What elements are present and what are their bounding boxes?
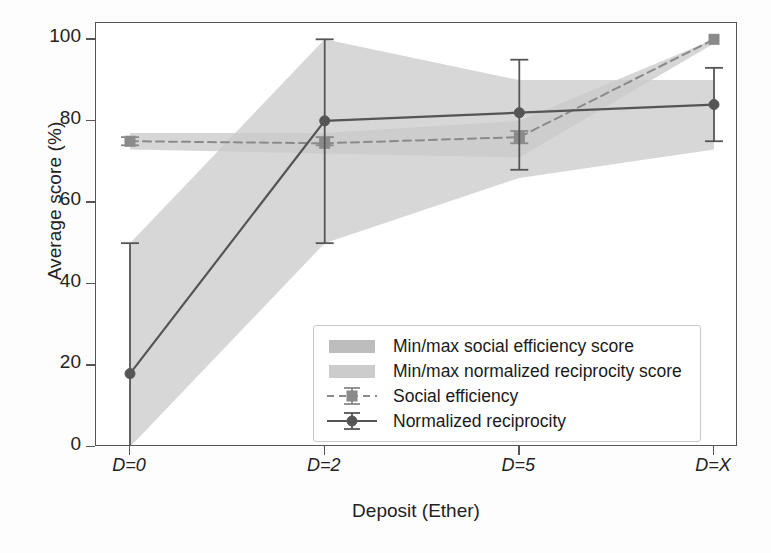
marker-circle-1-2 — [514, 108, 524, 118]
x-tick-mark — [324, 446, 325, 455]
x-tick-label: D=X — [668, 455, 758, 476]
legend-label: Min/max social efficiency score — [393, 336, 634, 356]
legend-band-swatch — [329, 365, 375, 378]
legend-label: Min/max normalized reciprocity score — [393, 361, 682, 381]
y-tick-mark — [86, 283, 95, 284]
marker-circle-1-3 — [709, 100, 719, 110]
legend-line-sample — [323, 385, 381, 407]
x-tick-label: D=2 — [279, 455, 369, 476]
y-tick-mark — [86, 201, 95, 202]
x-tick-mark — [713, 446, 714, 455]
y-tick-label: 20 — [26, 351, 81, 373]
legend-marker-square — [347, 391, 357, 401]
y-tick-label: 80 — [26, 107, 81, 129]
y-tick-mark — [86, 38, 95, 39]
marker-circle-1-0 — [125, 369, 135, 379]
y-tick-label: 100 — [26, 25, 81, 47]
y-tick-label: 60 — [26, 188, 81, 210]
legend-entry-3[interactable]: Normalized reciprocity — [323, 408, 691, 433]
x-tick-label: D=0 — [84, 455, 174, 476]
legend-line-sample — [323, 410, 381, 432]
marker-circle-1-1 — [320, 116, 330, 126]
x-tick-mark — [518, 446, 519, 455]
x-axis-label: Deposit (Ether) — [95, 500, 737, 522]
legend-marker-circle — [347, 416, 357, 426]
x-tick-mark — [129, 446, 130, 455]
y-tick-mark — [86, 446, 95, 447]
legend-label: Normalized reciprocity — [393, 411, 566, 431]
chart-figure: Average score (%) 100806040200 D=0D=2D=5… — [0, 0, 771, 553]
y-tick-mark — [86, 120, 95, 121]
y-tick-label: 0 — [26, 433, 81, 455]
legend-key-band-swatch — [323, 360, 381, 382]
marker-square-0-3 — [709, 34, 719, 44]
legend-band-swatch — [329, 340, 375, 353]
y-tick-mark — [86, 364, 95, 365]
legend-key-dashed-marker-line — [323, 385, 381, 407]
legend-entry-0[interactable]: Min/max social efficiency score — [323, 333, 691, 358]
legend-entry-1[interactable]: Min/max normalized reciprocity score — [323, 358, 691, 383]
legend-entry-2[interactable]: Social efficiency — [323, 383, 691, 408]
marker-square-0-0 — [125, 136, 135, 146]
x-tick-label: D=5 — [473, 455, 563, 476]
legend-key-solid-marker-line — [323, 410, 381, 432]
legend-key-band-swatch — [323, 335, 381, 357]
legend-label: Social efficiency — [393, 386, 518, 406]
y-tick-label: 40 — [26, 270, 81, 292]
chart-legend: Min/max social efficiency scoreMin/max n… — [313, 325, 701, 442]
